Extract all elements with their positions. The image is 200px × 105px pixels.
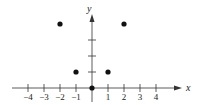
data-point xyxy=(73,69,78,74)
axes: x y xyxy=(12,3,191,102)
scatter-chart: x y −4−3−2−11234 xyxy=(0,0,200,105)
x-tick-label: 2 xyxy=(122,92,127,102)
x-tick-label: −2 xyxy=(55,92,65,102)
data-point xyxy=(105,69,110,74)
y-axis-label: y xyxy=(86,3,92,14)
x-tick-label: 3 xyxy=(138,92,143,102)
data-point xyxy=(57,21,62,26)
y-axis-arrow-icon xyxy=(90,14,95,22)
data-point xyxy=(89,85,94,90)
x-tick-label: 1 xyxy=(106,92,111,102)
x-tick-label: −4 xyxy=(23,92,33,102)
x-axis-arrow-icon xyxy=(174,86,182,91)
x-axis-label: x xyxy=(185,82,191,93)
data-point xyxy=(121,21,126,26)
x-tick-label: −3 xyxy=(39,92,49,102)
x-tick-label: 4 xyxy=(154,92,159,102)
x-tick-label: −1 xyxy=(71,92,81,102)
